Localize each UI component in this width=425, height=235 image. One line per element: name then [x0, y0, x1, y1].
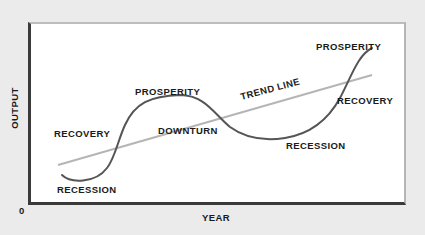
label-recovery-1: RECOVERY: [54, 129, 110, 139]
label-downturn: DOWNTURN: [158, 126, 218, 136]
label-prosperity-1: PROSPERITY: [135, 87, 200, 97]
trend-line: [58, 75, 372, 165]
origin-label: 0: [19, 206, 25, 216]
label-prosperity-2: PROSPERITY: [316, 42, 381, 52]
label-recession-1: RECESSION: [57, 185, 117, 195]
business-cycle-curve: [62, 48, 372, 181]
y-axis-label: OUTPUT: [10, 87, 20, 128]
chart-svg: [0, 0, 425, 235]
x-axis-label: YEAR: [202, 213, 230, 223]
label-recovery-2: RECOVERY: [337, 96, 393, 106]
label-recession-2: RECESSION: [286, 141, 346, 151]
